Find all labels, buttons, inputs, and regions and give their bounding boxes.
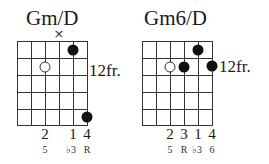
chord-diagram-gm6-d: Gm6/D 12fr. 2 3 1 4 5 R ♭3 6 bbox=[0, 0, 134, 164]
fret-line bbox=[143, 58, 212, 59]
finger-dot-open bbox=[165, 62, 176, 73]
chord-title: Gm6/D bbox=[144, 8, 207, 29]
finger-dot-filled bbox=[179, 62, 190, 73]
interval-label: ♭3 bbox=[192, 145, 202, 155]
fret-line bbox=[143, 109, 212, 110]
finger-dot-filled bbox=[193, 45, 204, 56]
interval-label: 6 bbox=[210, 145, 215, 155]
string-line bbox=[156, 42, 157, 125]
finger-number: 4 bbox=[208, 127, 216, 142]
fret-line bbox=[143, 75, 212, 76]
fret-line bbox=[143, 92, 212, 93]
interval-label: R bbox=[181, 145, 188, 155]
fretboard-grid bbox=[142, 41, 213, 126]
finger-number: 3 bbox=[180, 127, 188, 142]
string-line bbox=[184, 42, 185, 125]
fret-position-label: 12fr. bbox=[219, 58, 251, 75]
interval-label: 5 bbox=[168, 145, 173, 155]
finger-number: 2 bbox=[166, 127, 174, 142]
finger-number: 1 bbox=[194, 127, 202, 142]
finger-dot-filled bbox=[207, 61, 218, 72]
string-line bbox=[170, 42, 171, 125]
